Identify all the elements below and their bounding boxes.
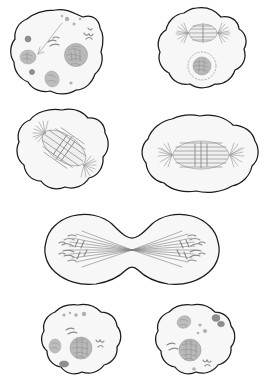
- nucleus: [65, 44, 88, 67]
- vesicle: [29, 69, 34, 74]
- nucleus: [70, 337, 92, 359]
- cell-membrane: [158, 8, 246, 88]
- speck: [197, 332, 200, 335]
- speck: [82, 312, 86, 316]
- speck: [192, 367, 196, 371]
- panel-metaphase: [142, 115, 258, 192]
- organelle: [60, 361, 69, 367]
- panel-prophase: [11, 10, 103, 94]
- speck: [69, 81, 72, 84]
- speck: [73, 23, 76, 26]
- panel-daughter-cell-right: [156, 304, 235, 373]
- mitosis-diagram: [0, 0, 265, 390]
- cell-membrane-dumbbell: [45, 214, 219, 284]
- spindle: [173, 141, 229, 169]
- speck: [203, 329, 207, 333]
- organelle: [49, 339, 61, 353]
- panel-metaphase-early: [17, 109, 108, 189]
- cell-membrane: [156, 304, 235, 373]
- organelle: [212, 315, 220, 322]
- speck: [61, 15, 63, 17]
- speck: [62, 313, 65, 316]
- speck: [74, 313, 78, 317]
- organelle: [20, 50, 36, 64]
- speck: [65, 17, 69, 21]
- organelle: [218, 321, 225, 327]
- speck: [69, 312, 71, 314]
- diagram-canvas: [0, 0, 265, 390]
- panel-daughter-cell-left: [42, 304, 121, 373]
- speck: [198, 323, 201, 326]
- panel-anaphase-telophase: [45, 214, 219, 284]
- nucleus: [179, 339, 201, 361]
- speck: [79, 18, 82, 21]
- panel-prometaphase: [158, 8, 246, 88]
- vesicle: [25, 36, 31, 42]
